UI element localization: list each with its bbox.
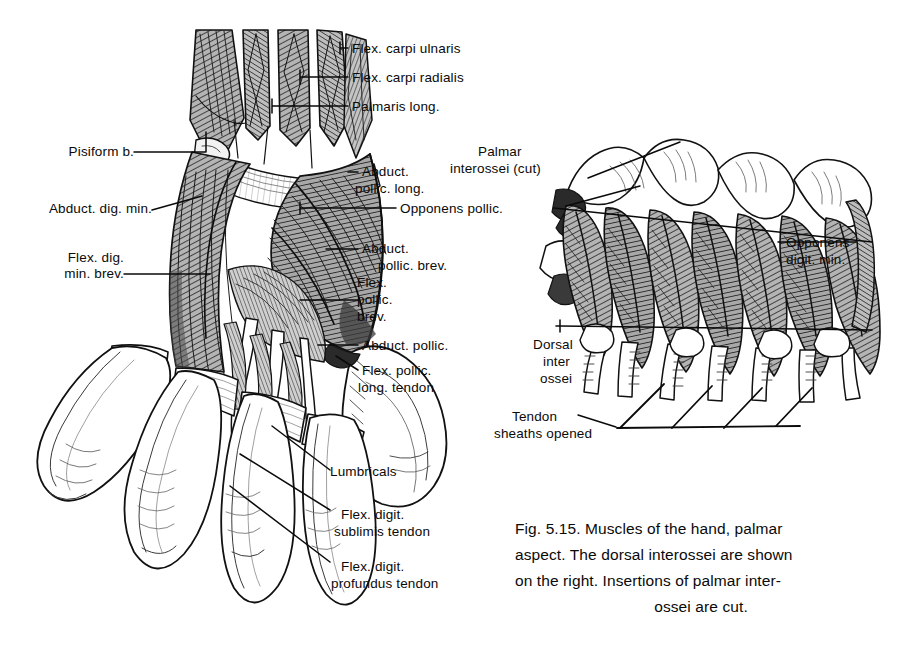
label-opponens-digiti-minimi-line2: digit. min.: [786, 252, 845, 268]
label-flex-dig-min-brevis-line2: min. brev.: [0, 266, 124, 282]
label-palmaris-longus: Palmaris long.: [352, 99, 440, 115]
label-flex-digit-profundus-tendon-line1: Flex. digit.: [341, 559, 404, 575]
figure-caption-line-4: ossei are cut.: [515, 594, 887, 620]
figure-caption-line-2: aspect. The dorsal interossei are shown: [515, 542, 887, 568]
label-palmar-interossei-cut-line2: interossei (cut): [450, 161, 541, 177]
label-flexor-pollicis-brevis-line3: brev.: [357, 309, 387, 325]
label-tendon-sheaths-opened-line2: sheaths opened: [494, 426, 592, 442]
label-abductor-pollicis-brevis-line2: pollic. brev.: [378, 258, 447, 274]
label-flex-pollicis-longus-tendon-line1: Flex. pollic.: [362, 363, 431, 379]
label-abductor-pollicis-longus-line2: pollic. long.: [355, 181, 425, 197]
label-opponens-pollicis: Opponens pollic.: [400, 201, 503, 217]
label-flexor-pollicis-brevis-line2: pollic.: [357, 292, 393, 308]
label-palmar-interossei-cut-line1: Palmar: [478, 144, 522, 160]
label-pisiform-bone: Pisiform b.: [14, 144, 134, 160]
label-tendon-sheaths-opened-line1: Tendon: [512, 409, 557, 425]
label-lumbricals: Lumbricals: [330, 464, 397, 480]
label-flex-carpi-radialis: Flex. carpi radialis: [352, 70, 464, 86]
label-adductor-pollicis: Abduct. pollic.: [362, 338, 448, 354]
label-abductor-pollicis-longus-line1: Abduct.: [362, 164, 409, 180]
label-flex-pollicis-longus-tendon-line2: long. tendon: [358, 380, 434, 396]
label-opponens-digiti-minimi-line1: Opponens: [786, 235, 850, 251]
label-abductor-digiti-minimi: Abduct. dig. min.: [2, 201, 152, 217]
label-dorsal-interossei-line2: inter: [543, 354, 570, 370]
label-flexor-pollicis-brevis-line1: Flex.: [357, 275, 387, 291]
label-flex-digit-sublimis-tendon-line1: Flex. digit.: [341, 507, 404, 523]
label-dorsal-interossei-line3: ossei: [540, 371, 572, 387]
label-dorsal-interossei-line1: Dorsal: [533, 337, 573, 353]
label-flex-digit-profundus-tendon-line2: profundus tendon: [331, 576, 439, 592]
figure-caption-line-1: Fig. 5.15. Muscles of the hand, palmar: [515, 516, 887, 542]
figure-caption-line-3: on the right. Insertions of palmar inter…: [515, 568, 887, 594]
label-flex-dig-min-brevis-line1: Flex. dig.: [0, 250, 124, 266]
label-abductor-pollicis-brevis-line1: Abduct.: [362, 241, 409, 257]
label-flex-carpi-ulnaris: Flex. carpi ulnaris: [352, 41, 461, 57]
label-flex-digit-sublimis-tendon-line2: sublimis tendon: [334, 524, 430, 540]
figure-caption: Fig. 5.15. Muscles of the hand, palmar a…: [515, 516, 887, 620]
